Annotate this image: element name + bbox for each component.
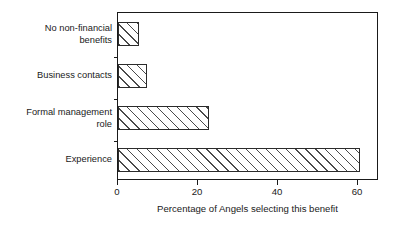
x-axis-tick: [117, 180, 118, 185]
bar-experience: [118, 148, 360, 172]
y-axis-tick-label: Formal management role: [0, 107, 112, 130]
chart-figure: No non-financial benefits Business conta…: [0, 0, 394, 229]
x-axis-tick-label: 0: [97, 186, 137, 198]
bar-business-contacts: [118, 64, 147, 88]
y-axis-tick: [114, 99, 118, 100]
bar-row: [118, 22, 377, 46]
x-axis-tick: [277, 180, 278, 185]
plot-area: [117, 12, 378, 180]
bar-row: [118, 148, 377, 172]
y-axis-tick-label: Business contacts: [0, 70, 112, 82]
y-axis-tick: [114, 57, 118, 58]
bar-no-non-financial-benefits: [118, 22, 139, 46]
bar-row: [118, 106, 377, 130]
x-axis-tick-label: 20: [177, 186, 217, 198]
x-axis-tick: [197, 180, 198, 185]
bar-row: [118, 64, 377, 88]
y-axis-tick-label: No non-financial benefits: [0, 23, 112, 46]
x-axis-tick-label: 40: [257, 186, 297, 198]
y-axis-tick-label: Experience: [0, 154, 112, 166]
x-axis-tick-label: 60: [337, 186, 377, 198]
bar-formal-management-role: [118, 106, 209, 130]
x-axis-title: Percentage of Angels selecting this bene…: [117, 203, 378, 215]
y-axis-tick: [114, 141, 118, 142]
x-axis-tick: [357, 180, 358, 185]
